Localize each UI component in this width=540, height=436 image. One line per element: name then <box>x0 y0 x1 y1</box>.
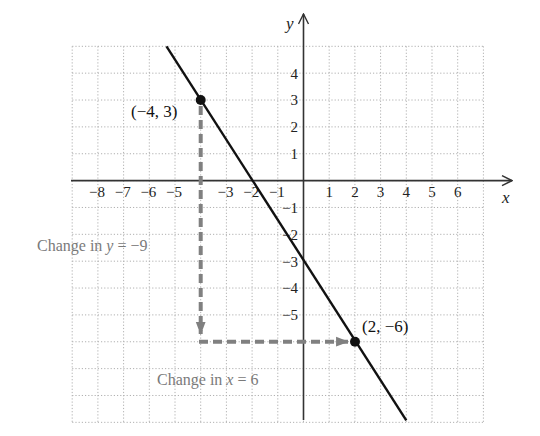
x-tick: −7 <box>115 184 131 200</box>
x-tick: 5 <box>428 184 436 200</box>
y-tick: 4 <box>291 66 299 82</box>
change-x-prefix: Change in <box>157 371 226 389</box>
x-tick: −1 <box>269 184 285 200</box>
x-tick: 4 <box>403 184 411 200</box>
change-y-prefix: Change in <box>37 237 106 255</box>
change-y-suffix: = −9 <box>113 237 147 254</box>
change-x-var: x <box>225 371 233 388</box>
change-x-suffix: = 6 <box>233 371 258 388</box>
y-tick: −1 <box>282 200 298 216</box>
x-axis-label: x <box>501 188 510 207</box>
y-tick: 2 <box>291 119 299 135</box>
slope-graph: y x −8 −7 −6 −5 −3 −2 −1 1 2 3 4 5 6 4 3… <box>0 0 540 436</box>
y-tick: −4 <box>282 280 298 296</box>
x-tick: 2 <box>351 184 359 200</box>
x-tick: −5 <box>166 184 182 200</box>
point-a-label: (−4, 3) <box>131 102 177 121</box>
x-tick: −6 <box>140 184 156 200</box>
x-tick: −3 <box>218 184 234 200</box>
change-in-y-label: Change in y = −9 <box>37 237 147 255</box>
y-tick: −5 <box>282 307 298 323</box>
x-tick-labels: −8 −7 −6 −5 −3 −2 −1 1 2 3 4 5 6 <box>89 184 462 200</box>
point-b <box>350 337 360 347</box>
y-axis-label: y <box>284 14 294 33</box>
point-a <box>196 95 206 105</box>
x-tick: 1 <box>325 184 333 200</box>
point-b-label: (2, −6) <box>362 317 408 336</box>
change-in-x-label: Change in x = 6 <box>157 371 258 389</box>
y-tick: 1 <box>291 146 299 162</box>
x-tick: −8 <box>89 184 105 200</box>
x-tick: 6 <box>454 184 462 200</box>
y-tick: 3 <box>291 92 299 108</box>
y-tick: −3 <box>282 254 298 270</box>
x-tick: 3 <box>377 184 385 200</box>
